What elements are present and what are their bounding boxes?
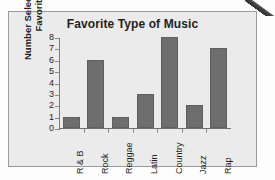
y-tick-label: 6 xyxy=(40,55,54,66)
chart-screenshot: Favorite Type of Music Number Selecting … xyxy=(0,0,275,180)
x-tick-label: Rap xyxy=(223,157,233,174)
y-tick-label: 3 xyxy=(40,89,54,100)
x-tick-label: Latin xyxy=(149,154,159,174)
bar xyxy=(161,37,178,128)
bar xyxy=(87,60,104,128)
y-tick-label: 5 xyxy=(40,66,54,77)
y-tick-label: 7 xyxy=(40,43,54,54)
y-tick-mark xyxy=(55,72,59,73)
y-tick-label: 2 xyxy=(40,100,54,111)
y-tick-mark xyxy=(55,129,59,130)
y-axis-line xyxy=(59,38,60,130)
bar xyxy=(137,94,154,128)
y-tick-mark xyxy=(55,95,59,96)
x-tick-label: Jazz xyxy=(198,155,208,174)
x-tick-label: Country xyxy=(174,142,184,174)
y-tick-label: 0 xyxy=(40,123,54,134)
plot-area: 012345678 xyxy=(59,38,231,129)
chart-panel: Favorite Type of Music Number Selecting … xyxy=(8,11,257,167)
y-tick-mark xyxy=(55,38,59,39)
y-tick-label: 1 xyxy=(40,112,54,123)
x-tick-label: R & B xyxy=(75,150,85,174)
bar xyxy=(112,117,129,128)
chart-title: Favorite Type of Music xyxy=(9,17,256,31)
y-tick-mark xyxy=(55,118,59,119)
y-tick-label: 8 xyxy=(40,32,54,43)
bar xyxy=(63,117,80,128)
x-axis-line xyxy=(59,128,231,129)
bar xyxy=(210,48,227,128)
y-tick-mark xyxy=(55,84,59,85)
y-tick-mark xyxy=(55,106,59,107)
x-tick-label: Rock xyxy=(100,153,110,174)
x-tick-label: Reggae xyxy=(124,142,134,174)
x-axis-labels: R & BRockReggaeLatinCountryJazzRap xyxy=(59,132,231,176)
y-tick-mark xyxy=(55,61,59,62)
y-tick-label: 4 xyxy=(40,78,54,89)
bar xyxy=(186,105,203,128)
y-tick-mark xyxy=(55,49,59,50)
